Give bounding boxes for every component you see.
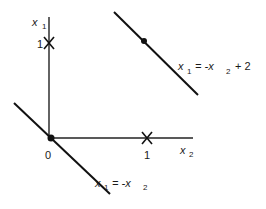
eq-lhs-sub: 1	[104, 183, 109, 192]
eq-tail: + 2	[235, 60, 251, 72]
vertical-axis-label: x	[31, 16, 38, 28]
eq-lhs: x	[177, 60, 184, 72]
eq-rhs-sub: 2	[143, 183, 148, 192]
eq-rhs-sub: 2	[226, 67, 231, 76]
upper-line	[114, 12, 198, 95]
vertical-tick-label: 1	[37, 38, 43, 50]
eq-mid: = -x	[112, 177, 131, 189]
horizontal-tick-label: 1	[144, 149, 150, 161]
vertical-axis-label-sub: 1	[42, 22, 47, 31]
eq-lhs-sub: 1	[187, 67, 192, 76]
upper-line-point	[141, 38, 147, 44]
origin-point	[48, 135, 55, 142]
eq-mid: = -x	[195, 60, 214, 72]
origin-label: 0	[45, 149, 51, 161]
upper-line-equation: x 1 = -x 2 + 2	[177, 60, 251, 76]
horizontal-axis-label: x	[179, 144, 186, 156]
diagram-canvas: x 1 1 0 1 x 2 x 1 = -x 2 + 2 x 1 = -x 2	[0, 0, 266, 209]
eq-lhs: x	[94, 177, 101, 189]
horizontal-axis-label-sub: 2	[189, 150, 194, 159]
lower-line-equation: x 1 = -x 2	[94, 177, 148, 192]
